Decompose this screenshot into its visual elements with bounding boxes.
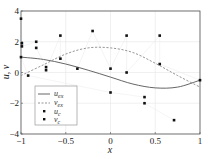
- svg-text:4: 4: [15, 6, 20, 16]
- legend-vc-marker-icon: [43, 118, 45, 120]
- svg-text:−2: −2: [9, 98, 19, 108]
- svg-text:−0.5: −0.5: [58, 136, 75, 146]
- svg-text:−4: −4: [9, 129, 19, 139]
- svg-text:1: 1: [198, 136, 203, 146]
- legend: uex vex uc vc: [35, 86, 77, 125]
- y-axis-label: u, v: [0, 64, 11, 79]
- svg-text:0: 0: [15, 68, 20, 78]
- legend-uc-marker-icon: [43, 110, 45, 112]
- x-axis-label: x: [107, 144, 113, 155]
- svg-text:0.5: 0.5: [150, 136, 162, 146]
- svg-text:2: 2: [15, 37, 20, 47]
- chart: −1−0.500.51 −4−2024 x u, v uex vex uc vc: [0, 0, 208, 159]
